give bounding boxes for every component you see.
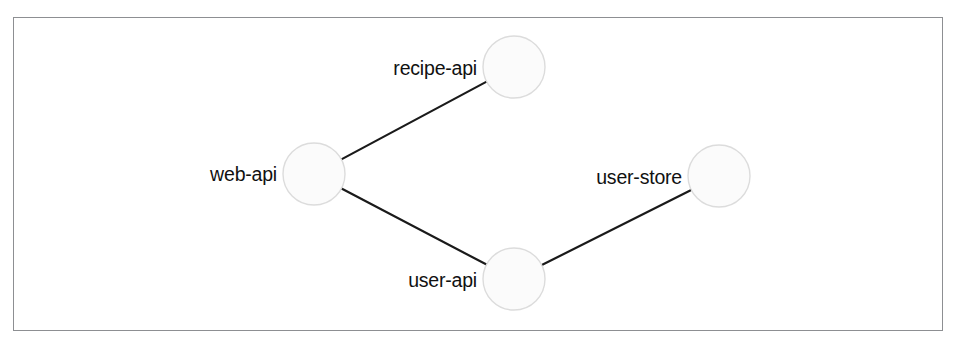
graph-node-web-api[interactable] <box>283 143 345 205</box>
graph-node-label-recipe-api: recipe-api <box>393 57 477 80</box>
graph-node-recipe-api[interactable] <box>483 36 545 98</box>
figure-container: recipe-apiweb-apiuser-storeuser-api <box>0 0 957 343</box>
graph-node-label-user-store: user-store <box>596 166 682 189</box>
graph-edge-web-api-to-recipe-api <box>340 81 487 160</box>
graph-node-label-user-api: user-api <box>408 269 477 292</box>
graph-node-label-web-api: web-api <box>210 163 277 186</box>
graph-edge-web-api-to-user-api <box>341 188 488 265</box>
graph-edge-user-api-to-user-store <box>541 189 692 265</box>
graph-node-user-api[interactable] <box>483 248 545 310</box>
graph-canvas <box>0 0 957 343</box>
graph-node-user-store[interactable] <box>688 145 750 207</box>
